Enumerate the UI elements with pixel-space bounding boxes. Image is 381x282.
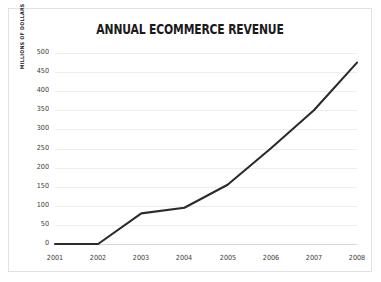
data-line [9,9,373,273]
chart-card: ANNUAL ECOMMERCE REVENUE MILLIONS OF DOL… [8,8,372,272]
plot-area: MILLIONS OF DOLLARS 05010015020025030035… [9,9,373,273]
revenue-line-path [55,63,357,244]
